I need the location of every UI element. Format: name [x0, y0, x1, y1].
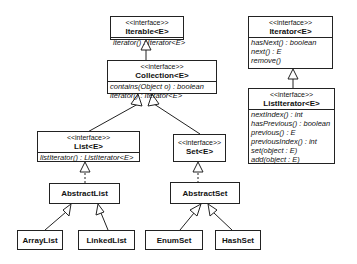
- class-name: ArrayList: [22, 236, 57, 245]
- operation: iterator() : Iterator<E>: [113, 38, 181, 47]
- set-interface: <<interface>>Set<E>: [173, 134, 226, 162]
- stereotype-label: <<interface>>: [249, 90, 334, 99]
- enumset-class: EnumSet: [145, 230, 203, 250]
- abstractset-class: AbstractSet: [170, 182, 240, 204]
- hashset-class: HashSet: [215, 230, 261, 250]
- class-name: Set<E>: [174, 147, 225, 156]
- class-name: LinkedList: [86, 236, 126, 245]
- operation: previousIndex() : int: [251, 137, 332, 146]
- class-name: ListIterator<E>: [249, 99, 334, 108]
- class-name: HashSet: [222, 236, 254, 245]
- iterator-interface: <<interface>>Iterator<E> hasNext() : boo…: [248, 16, 333, 69]
- stereotype-label: <<interface>>: [249, 18, 332, 27]
- listiterator-interface: <<interface>>ListIterator<E> nextIndex()…: [248, 88, 335, 164]
- operation: iterator() : Iterator<E>: [110, 91, 214, 100]
- operation: set(object : E): [251, 146, 332, 155]
- stereotype-label: <<interface>>: [108, 62, 216, 71]
- class-name: Iterator<E>: [249, 27, 332, 36]
- stereotype-label: <<interface>>: [38, 133, 139, 142]
- operation: remove(): [251, 56, 330, 65]
- class-name: Iterable<E>: [111, 27, 183, 36]
- operation: next() : E: [251, 47, 330, 56]
- class-name: Collection<E>: [108, 71, 216, 80]
- linkedlist-class: LinkedList: [78, 230, 135, 250]
- collection-interface: <<interface>>Collection<E> contains(Obje…: [107, 60, 217, 94]
- operation: previous() : E: [251, 128, 332, 137]
- arraylist-class: ArrayList: [17, 230, 63, 250]
- operation: hasNext() : boolean: [251, 38, 330, 47]
- iterable-interface: <<interface>>Iterable<E> iterator() : It…: [110, 16, 184, 40]
- operation: listIterator() : ListIterator<E>: [40, 153, 137, 162]
- class-name: AbstractList: [61, 189, 108, 198]
- class-name: EnumSet: [157, 236, 192, 245]
- list-interface: <<interface>>List<E> listIterator() : Li…: [37, 131, 140, 162]
- abstractlist-class: AbstractList: [49, 183, 120, 204]
- operation: add(object : E): [251, 155, 332, 164]
- stereotype-label: <<interface>>: [174, 138, 225, 147]
- class-name: AbstractSet: [183, 189, 228, 198]
- operation: nextIndex() : int: [251, 110, 332, 119]
- class-name: List<E>: [38, 142, 139, 151]
- operation: contains(Object o) : boolean: [110, 82, 214, 91]
- stereotype-label: <<interface>>: [111, 18, 183, 27]
- operation: hasPrevious() : boolean: [251, 119, 332, 128]
